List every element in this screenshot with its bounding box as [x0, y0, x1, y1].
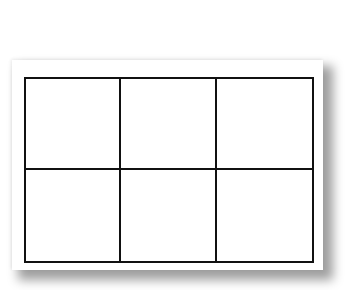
grid-cell-r2-c2 [121, 170, 216, 261]
grid-cell-r2-c1 [26, 170, 121, 261]
grid-cell-r2-c3 [217, 170, 312, 261]
grid-cell-r1-c3 [217, 79, 312, 170]
grid-cell-r1-c2 [121, 79, 216, 170]
grid-3x2 [24, 77, 314, 263]
paper-sheet [12, 60, 323, 270]
grid-cell-r1-c1 [26, 79, 121, 170]
